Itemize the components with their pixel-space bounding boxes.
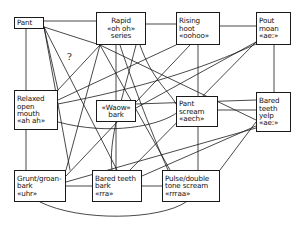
node-pant[interactable]: Pant: [14, 17, 44, 29]
node-label-line: series: [111, 32, 131, 39]
node-label-line: «rra»: [95, 190, 113, 197]
node-label-line: «rrraa»: [165, 190, 190, 197]
node-label-line: bark: [108, 111, 123, 118]
node-label-line: Pant: [17, 19, 32, 26]
node-label-line: «uhr»: [17, 190, 37, 197]
node-bared-teeth-yelp[interactable]: Baredteethyelp«ae:»: [256, 92, 291, 132]
node-label-line: «ae:»: [259, 119, 278, 126]
node-relaxed-open-mouth[interactable]: Relaxedopenmouth«ah ah»: [14, 90, 58, 130]
node-pant-scream[interactable]: Pantscream«aech»: [176, 96, 218, 127]
node-bared-teeth-bark[interactable]: Bared teethbark«rra»: [92, 170, 142, 202]
node-label-line: «ah ah»: [17, 117, 45, 124]
node-rising-hoot[interactable]: Risinghoot«oohoo»: [176, 12, 220, 45]
node-pout-moan[interactable]: Poutmoan«ae:»: [256, 12, 291, 45]
node-label-line: «aech»: [179, 115, 204, 122]
node-rapid-oh-oh-series[interactable]: Rapid«oh oh»series: [96, 12, 146, 45]
node-label-line: «oohoo»: [179, 32, 209, 39]
node-grunt-groan-bark[interactable]: Grunt/groan-bark«uhr»: [14, 170, 66, 202]
diagram-canvas: PantRapid«oh oh»seriesRisinghoot«oohoo»P…: [0, 0, 303, 226]
node-layer: PantRapid«oh oh»seriesRisinghoot«oohoo»P…: [0, 0, 303, 226]
node-pulse-double-tone-scream[interactable]: Pulse/doubletone scream«rrraa»: [162, 170, 220, 202]
node-waow-bark[interactable]: «Waow»bark: [96, 100, 136, 122]
node-label-line: «ae:»: [259, 32, 278, 39]
edge-label-uncertain-link: ?: [67, 52, 72, 62]
